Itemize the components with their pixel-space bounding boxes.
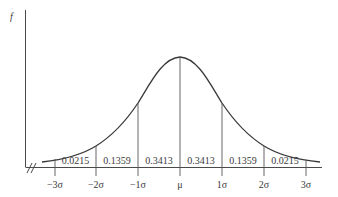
- tick-label-plus1sigma: 1σ: [217, 179, 228, 190]
- tick-label-minus3sigma: −3σ: [47, 179, 64, 190]
- region-prob-6: 0.0215: [271, 155, 299, 166]
- tick-label-minus2sigma: −2σ: [88, 179, 105, 190]
- region-prob-4: 0.3413: [187, 155, 215, 166]
- tick-label-plus3sigma: 3σ: [301, 179, 312, 190]
- tick-label-minus1sigma: −1σ: [130, 179, 147, 190]
- region-prob-3: 0.3413: [145, 155, 173, 166]
- normal-distribution-diagram: f 0.0215 0.1359 0.3413 0.3413 0.1359 0.0…: [0, 0, 338, 197]
- region-prob-2: 0.1359: [103, 155, 131, 166]
- tick-label-mu: μ: [177, 179, 182, 190]
- y-axis-label: f: [10, 11, 14, 22]
- bell-curve: [42, 57, 320, 162]
- region-prob-5: 0.1359: [229, 155, 257, 166]
- region-prob-1: 0.0215: [62, 155, 90, 166]
- tick-label-plus2sigma: 2σ: [259, 179, 270, 190]
